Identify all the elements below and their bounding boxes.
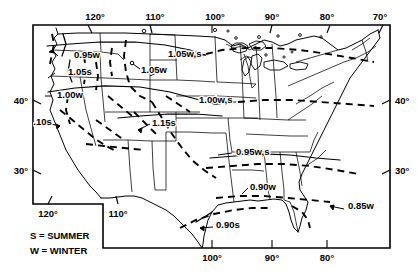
contour-label-0.85w: 0.85w [348,200,374,211]
tick-top-2: 100° [205,11,225,22]
legend-winter: W = WINTER [30,245,87,256]
tick-top-0: 120° [85,11,105,22]
contour-label-1.15s: 1.15s [152,117,176,128]
contour-label-0.95ws: 0.95w,s [236,146,269,157]
contour-label-0.90s: 0.90s [216,219,240,230]
svg-text:1.05w,s: 1.05w,s [168,48,201,59]
legend-summer: S = SUMMER [30,230,90,241]
svg-text:1.10s: 1.10s [28,116,52,127]
legend: S = SUMMER W = WINTER [30,230,90,256]
tick-left-1: 30° [14,165,29,176]
contour-label-1.05s: 1.05s [68,66,92,77]
map-figure: 120° 110° 100° 90° 80° 70° 120° 110° 100… [0,0,417,278]
tick-bottom-4: 80° [320,252,335,263]
svg-text:0.90w: 0.90w [250,181,276,192]
tick-bottom-3: 90° [265,252,280,263]
svg-text:1.00w,s: 1.00w,s [199,94,232,105]
svg-text:0.85w: 0.85w [348,200,374,211]
tick-top-4: 80° [320,11,335,22]
contour-label-1.05ws: 1.05w,s [168,48,201,59]
tick-top-5: 70° [373,11,388,22]
tick-left-0: 40° [14,95,29,106]
contour-label-1.05w: 1.05w [141,64,167,75]
tick-bottom-2: 100° [202,252,222,263]
tick-bottom-0: 120° [38,208,58,219]
map-svg: 120° 110° 100° 90° 80° 70° 120° 110° 100… [0,0,417,278]
tick-top-1: 110° [145,11,164,22]
svg-text:1.15s: 1.15s [152,117,176,128]
tick-bottom-1: 110° [108,208,127,219]
svg-text:1.00w: 1.00w [57,89,83,100]
contour-label-0.90w: 0.90w [250,181,276,192]
tick-top-3: 90° [265,11,280,22]
svg-text:0.90s: 0.90s [216,219,240,230]
svg-text:0.95w,s: 0.95w,s [236,146,269,157]
tick-right-0: 40° [395,95,410,106]
contour-label-1.10s: 1.10s [28,116,52,127]
contour-label-0.95w: 0.95w [74,49,100,60]
tick-right-1: 30° [395,165,410,176]
contour-label-1.00w: 1.00w [57,89,83,100]
svg-text:1.05s: 1.05s [68,66,92,77]
svg-text:0.95w: 0.95w [74,49,100,60]
contour-label-1.00ws: 1.00w,s [199,94,232,105]
svg-text:1.05w: 1.05w [141,64,167,75]
